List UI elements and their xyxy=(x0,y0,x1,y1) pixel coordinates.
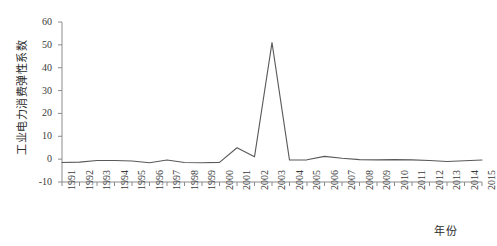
x-tick-label: 1997 xyxy=(171,170,182,190)
data-series-line xyxy=(62,43,482,163)
x-tick-label: 2000 xyxy=(224,170,235,190)
x-tick-label: 1994 xyxy=(119,170,130,190)
x-tick-label: 2004 xyxy=(294,170,305,190)
x-tick-label: 1999 xyxy=(206,170,217,190)
y-tick-label: 20 xyxy=(26,107,52,118)
x-tick-label: 2002 xyxy=(259,170,270,190)
x-tick-label: 2008 xyxy=(364,170,375,190)
x-tick-label: 2015 xyxy=(486,170,497,190)
y-tick-label: 60 xyxy=(26,16,52,27)
x-tick-label: 2005 xyxy=(311,170,322,190)
x-tick-label: 1991 xyxy=(66,170,77,190)
x-tick-label: 2014 xyxy=(469,170,480,190)
y-axis-ticks xyxy=(58,22,62,182)
x-tick-label: 2007 xyxy=(346,170,357,190)
x-tick-label: 2010 xyxy=(399,170,410,190)
x-tick-label: 2012 xyxy=(434,170,445,190)
y-tick-label: 30 xyxy=(26,85,52,96)
x-tick-label: 2013 xyxy=(451,170,462,190)
x-tick-label: 1998 xyxy=(189,170,200,190)
y-tick-label: 10 xyxy=(26,130,52,141)
x-tick-label: 2006 xyxy=(329,170,340,190)
x-tick-label: 2011 xyxy=(416,170,427,190)
x-tick-label: 2003 xyxy=(276,170,287,190)
x-tick-label: 1995 xyxy=(136,170,147,190)
y-tick-label: 0 xyxy=(26,153,52,164)
x-tick-label: 1996 xyxy=(154,170,165,190)
x-tick-label: 1992 xyxy=(84,170,95,190)
y-tick-label: 50 xyxy=(26,39,52,50)
y-tick-label: -10 xyxy=(26,176,52,187)
x-tick-label: 2009 xyxy=(381,170,392,190)
x-tick-label: 2001 xyxy=(241,170,252,190)
y-tick-label: 40 xyxy=(26,62,52,73)
x-tick-label: 1993 xyxy=(101,170,112,190)
